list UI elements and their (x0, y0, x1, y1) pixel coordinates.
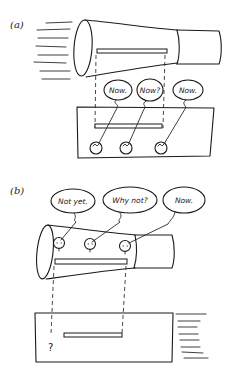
svg-text:Why not?: Why not? (112, 196, 147, 205)
alignment-line-left-b (51, 266, 54, 334)
rod-in-tube-a (97, 49, 167, 53)
alignment-line-right-b (122, 266, 126, 334)
rod-in-box-b (64, 333, 122, 337)
motion-lines-right (176, 314, 208, 358)
box-a (77, 107, 214, 158)
relativity-diagram: (a) (0, 0, 236, 382)
svg-text:Now.: Now. (175, 196, 193, 205)
tube-a (72, 19, 221, 77)
svg-text:Now?: Now? (140, 86, 160, 95)
observers-b (54, 238, 131, 255)
speech-bubble: Not yet. (51, 189, 95, 240)
clock-icon (90, 142, 102, 154)
panel-a: (a) (10, 19, 221, 158)
panel-b: (b) Not yet. Why not? Now. (10, 185, 208, 362)
motion-lines-left (34, 22, 72, 79)
speech-bubble: Now. (164, 80, 203, 144)
observers-a (90, 142, 167, 154)
svg-text:Now.: Now. (109, 86, 127, 95)
alignment-line-left-a (95, 55, 96, 128)
speech-bubble: Now. (99, 80, 132, 143)
panel-a-label: (a) (10, 19, 24, 30)
rod-in-tube-b (55, 259, 127, 264)
clock-icon (120, 241, 131, 252)
question-mark: ? (48, 342, 53, 353)
speech-bubble: Now? (129, 79, 163, 143)
rod-in-box-a (95, 124, 162, 128)
clock-icon (54, 238, 65, 249)
svg-text:Not yet.: Not yet. (58, 197, 88, 206)
clock-icon (85, 239, 96, 250)
tube-b (34, 224, 174, 279)
clock-icon (155, 142, 167, 154)
svg-text:Now.: Now. (179, 86, 197, 95)
panel-b-label: (b) (10, 185, 24, 196)
clock-icon (120, 142, 132, 154)
